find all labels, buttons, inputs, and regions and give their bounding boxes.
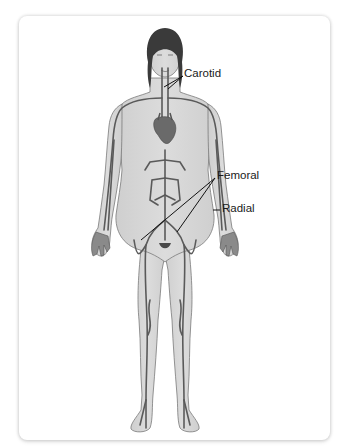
human-body-illustration: [0, 0, 341, 446]
label-femoral: Femoral: [217, 170, 259, 182]
label-carotid: Carotid: [184, 68, 221, 80]
label-radial: Radial: [222, 203, 255, 215]
